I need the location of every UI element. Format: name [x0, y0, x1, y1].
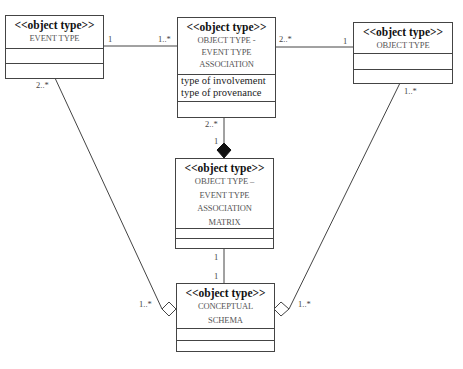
class-name-line: SCHEMA [177, 314, 274, 328]
filled-diamond-icon [217, 143, 231, 158]
multiplicity-et-assoc-right: 1..* [158, 34, 171, 44]
class-name-line: EVENT TYPE [6, 32, 103, 44]
class-conceptual-schema[interactable]: <<object type>> CONCEPTUAL SCHEMA [176, 283, 275, 352]
operations-compartment [177, 341, 274, 351]
multiplicity-ot-schema-top: 1..* [404, 86, 417, 96]
stereotype-label: <<object type>> [354, 26, 452, 39]
multiplicity-et-schema-bottom: 1..* [139, 299, 152, 309]
stereotype-label: <<object type>> [177, 287, 274, 300]
attributes-compartment [177, 329, 274, 341]
class-ot-et-association-matrix[interactable]: <<object type>> OBJECT TYPE – EVENT TYPE… [175, 158, 274, 249]
stereotype-label: <<object type>> [6, 19, 103, 32]
multiplicity-et-schema-top: 2..* [36, 80, 49, 90]
attribute-type-of-provenance: type of provenance [181, 87, 275, 99]
attribute-type-of-involvement: type of involvement [181, 75, 275, 87]
class-header: <<object type>> OBJECT TYPE – EVENT TYPE… [176, 159, 273, 229]
class-name-line: EVENT TYPE [178, 46, 275, 58]
class-name-line: OBJECT TYPE [354, 39, 452, 51]
class-ot-et-association[interactable]: <<object type>> OBJECT TYPE - EVENT TYPE… [177, 17, 276, 118]
multiplicity-et-assoc-left: 1 [108, 34, 112, 44]
class-header: <<object type>> OBJECT TYPE [354, 23, 452, 54]
attributes-compartment: type of involvement type of provenance [178, 75, 275, 102]
class-object-type[interactable]: <<object type>> OBJECT TYPE [353, 22, 453, 84]
stereotype-label: <<object type>> [178, 21, 275, 34]
class-name-line: OBJECT TYPE - [178, 34, 275, 46]
class-name-line: EVENT TYPE [176, 189, 273, 203]
operations-compartment [176, 239, 273, 248]
class-header: <<object type>> EVENT TYPE [6, 16, 103, 49]
attributes-compartment [6, 49, 103, 64]
attributes-compartment [176, 229, 273, 239]
multiplicity-matrix-schema-top: 1 [214, 252, 218, 262]
operations-compartment [354, 70, 452, 83]
class-header: <<object type>> OBJECT TYPE - EVENT TYPE… [178, 18, 275, 75]
operations-compartment [178, 102, 275, 117]
multiplicity-assoc-ot-left: 2..* [279, 34, 292, 44]
multiplicity-assoc-matrix-top: 2..* [205, 119, 218, 129]
aggregation-line-object-type-to-schema [289, 83, 400, 309]
multiplicity-matrix-schema-bottom: 1 [214, 271, 218, 281]
class-name-line: OBJECT TYPE – [176, 175, 273, 189]
operations-compartment [6, 64, 103, 78]
class-event-type[interactable]: <<object type>> EVENT TYPE [5, 15, 104, 79]
open-diamond-right-icon [274, 302, 289, 316]
aggregation-line-event-type-to-schema [55, 78, 162, 309]
open-diamond-left-icon [162, 302, 176, 316]
multiplicity-assoc-matrix-bottom: 1 [214, 136, 218, 146]
class-name-line: CONCEPTUAL [177, 300, 274, 314]
multiplicity-ot-schema-bottom: 1..* [298, 299, 311, 309]
attributes-compartment [354, 54, 452, 70]
class-name-line: ASSOCIATION [176, 202, 273, 216]
class-name-line: MATRIX [176, 216, 273, 230]
stereotype-label: <<object type>> [176, 162, 273, 175]
multiplicity-assoc-ot-right: 1 [343, 36, 347, 46]
class-name-line: ASSOCIATION [178, 58, 275, 70]
class-header: <<object type>> CONCEPTUAL SCHEMA [177, 284, 274, 329]
